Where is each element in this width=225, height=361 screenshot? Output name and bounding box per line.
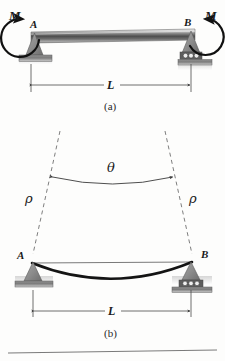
- chord-line-b: [32, 262, 192, 263]
- theta-label-b: θ: [107, 161, 115, 174]
- radius-line-right-b: [165, 131, 192, 254]
- caption-b: (b): [104, 328, 117, 339]
- radius-line-left-b: [33, 131, 60, 254]
- bottom-divider-rule: [8, 350, 217, 353]
- roller-circle-b-3: [195, 281, 200, 286]
- rho-label-left-b: ρ: [25, 192, 33, 205]
- rho-label-right-b: ρ: [189, 192, 197, 205]
- span-label-a: L: [107, 79, 114, 91]
- roller-circle-b-2: [189, 281, 194, 286]
- roller-circle-a-1: [183, 53, 188, 58]
- caption-a: (a): [104, 101, 116, 112]
- roller-circle-b-1: [183, 281, 188, 286]
- figure-container: M M A B L (a) θ ρ ρ A B L (b): [0, 0, 225, 361]
- roller-support-base-a: [178, 60, 212, 66]
- node-label-b-left: A: [17, 250, 24, 261]
- moment-label-left-a: M: [9, 9, 21, 22]
- deflection-curve-b: [32, 262, 192, 279]
- roller-circle-a-2: [189, 53, 194, 58]
- node-label-a-right: B: [184, 17, 191, 28]
- node-label-b-right: B: [201, 249, 208, 260]
- panel-b-group: [15, 131, 212, 317]
- node-label-a-left: A: [30, 19, 37, 30]
- roller-support-base-b: [172, 287, 212, 293]
- pin-support-base-b: [15, 281, 53, 287]
- span-label-b: L: [108, 305, 115, 317]
- theta-arc-b: [53, 177, 173, 184]
- moment-label-right-a: M: [205, 9, 217, 22]
- beam-bar-a: [31, 29, 195, 43]
